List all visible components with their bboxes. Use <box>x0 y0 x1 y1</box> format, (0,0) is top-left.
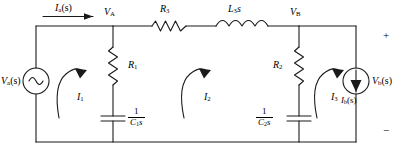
capacitor-c1-label: 1 C1s <box>128 107 145 128</box>
input-voltage-source-label: Va(s) <box>1 76 21 87</box>
node-a-label: VA <box>104 7 115 18</box>
wire-frame <box>36 26 356 142</box>
capacitor-c2-symbol <box>287 116 311 121</box>
polarity-minus-label: − <box>383 124 389 136</box>
circuit-diagram: Ia(s) VA VB R3 L3s R1 R2 1 C1s 1 C2s Va(… <box>0 0 403 153</box>
branch-node-b <box>287 26 311 142</box>
mesh-current-3-arrow <box>315 69 344 119</box>
resistor-r1-label: R1 <box>128 60 138 71</box>
capacitor-c2-label: 1 C2s <box>256 107 273 128</box>
input-current-label: Ia(s) <box>55 3 72 14</box>
branch-node-a <box>101 26 125 142</box>
mesh-current-2-label: I2 <box>204 92 211 103</box>
inductor-l3-label: L3s <box>228 4 241 15</box>
ac-voltage-source-symbol <box>23 68 49 94</box>
inductor-l3-symbol <box>216 21 268 27</box>
current-source-symbol <box>343 68 369 94</box>
resistor-r3-label: R3 <box>160 4 170 15</box>
capacitor-c1-symbol <box>101 116 125 121</box>
output-current-source-label: Ib(s) <box>341 96 357 105</box>
resistor-r2-label: R2 <box>273 60 283 71</box>
node-b-label: VB <box>290 7 301 18</box>
circuit-schematic-canvas <box>0 0 403 153</box>
output-voltage-label: Vb(s) <box>372 76 392 87</box>
resistor-r2-symbol <box>295 47 304 85</box>
polarity-plus-label: + <box>383 29 389 41</box>
resistor-r3-symbol <box>152 21 186 31</box>
mesh-current-1-label: I1 <box>77 92 84 103</box>
mesh-current-3-label: I3 <box>331 92 338 103</box>
resistor-r1-symbol <box>109 47 118 85</box>
